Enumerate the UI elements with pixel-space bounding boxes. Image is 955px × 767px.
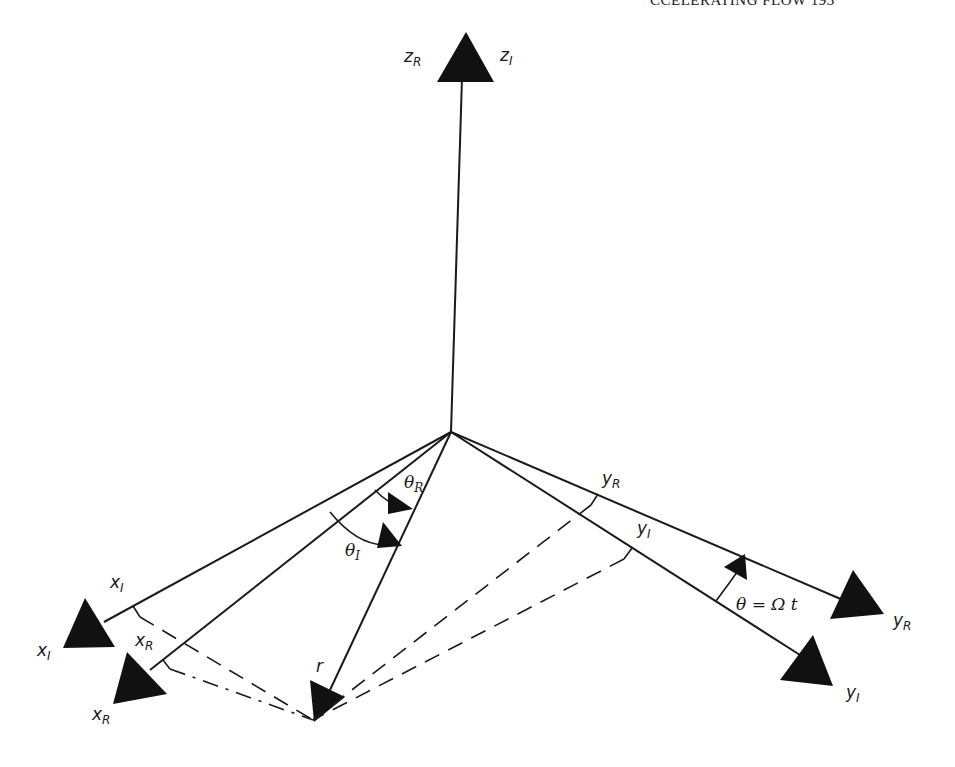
- x-i-projection-tick: [133, 606, 140, 617]
- rotating-frame-diagram: zR zI xI xI xR xR yR yR yI yI θR θI r θ …: [0, 0, 955, 767]
- label-rotation-equation: θ = Ω t: [736, 594, 798, 614]
- label-x-i-tip: xI: [36, 640, 51, 663]
- label-x-i-top: xI: [109, 572, 124, 595]
- x-r-projection-tick: [163, 660, 170, 669]
- omega-t-arrowhead-icon: [724, 554, 747, 580]
- z-axis-arrowhead-icon: [437, 32, 494, 82]
- x-i-axis: [104, 432, 451, 622]
- y-r-arrowhead-icon: [830, 570, 884, 619]
- y-i-projection-line: [313, 559, 624, 720]
- x-i-arrowhead-icon: [63, 598, 115, 648]
- label-y-i-top: yI: [636, 518, 651, 541]
- r-vector: [330, 432, 451, 690]
- y-i-arrowhead-icon: [780, 635, 833, 686]
- label-z-i: zI: [499, 45, 513, 68]
- label-y-i-tip: yI: [845, 682, 860, 705]
- label-y-r-top: yR: [601, 468, 620, 491]
- r-arrowhead-icon: [310, 680, 345, 722]
- label-y-r-tip: yR: [892, 610, 911, 633]
- y-r-axis: [451, 432, 843, 600]
- label-r: r: [316, 656, 324, 676]
- theta-i-arrowhead-icon: [377, 522, 402, 548]
- label-x-r-top: xR: [134, 630, 153, 653]
- label-x-r-tip: xR: [91, 704, 110, 727]
- theta-i-arc: [330, 512, 384, 545]
- y-r-projection-tick: [591, 494, 598, 505]
- x-r-axis: [150, 432, 451, 670]
- label-theta-i: θI: [345, 540, 360, 563]
- theta-r-arrowhead-icon: [388, 492, 413, 514]
- label-theta-r: θR: [404, 472, 423, 495]
- z-axis: [451, 78, 462, 432]
- label-z-r: zR: [403, 46, 421, 69]
- y-r-projection-line: [313, 505, 591, 720]
- x-r-arrowhead-icon: [113, 652, 167, 704]
- y-i-projection-tick: [624, 548, 632, 559]
- x-i-projection-line: [140, 617, 313, 720]
